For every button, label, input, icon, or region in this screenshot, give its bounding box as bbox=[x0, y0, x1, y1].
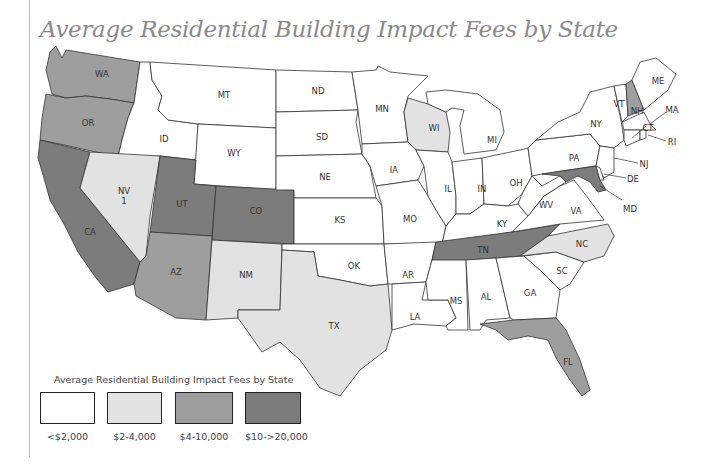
legend-item-2-4000: $2-4,000 bbox=[107, 392, 162, 442]
label-al: AL bbox=[481, 292, 492, 302]
label-ny: NY bbox=[590, 119, 602, 129]
label-vt: VT bbox=[613, 99, 625, 109]
label-il: IL bbox=[444, 184, 452, 194]
legend-item-10-20000: $10->20,000 bbox=[245, 392, 308, 442]
label-nv-sub: 1 bbox=[121, 196, 126, 206]
label-de: DE bbox=[627, 174, 639, 184]
label-mi: MI bbox=[487, 135, 497, 145]
label-az: AZ bbox=[170, 267, 182, 277]
label-nh: NH bbox=[631, 106, 644, 116]
label-sc: SC bbox=[556, 266, 567, 276]
label-ks: KS bbox=[335, 215, 346, 225]
label-tx: TX bbox=[327, 321, 339, 331]
legend-swatch bbox=[40, 392, 95, 424]
label-nd: ND bbox=[312, 86, 325, 96]
state-mt[interactable] bbox=[150, 62, 276, 128]
label-wv: WV bbox=[539, 200, 553, 210]
label-nv: NV bbox=[118, 186, 130, 196]
label-ct: CT bbox=[642, 123, 654, 133]
label-wa: WA bbox=[95, 69, 109, 79]
label-ga: GA bbox=[524, 288, 537, 298]
label-mn: MN bbox=[375, 104, 389, 114]
label-ma: MA bbox=[665, 105, 678, 115]
legend-swatch bbox=[107, 392, 162, 424]
legend-label: $2-4,000 bbox=[107, 431, 162, 442]
label-in: IN bbox=[478, 184, 487, 194]
label-ar: AR bbox=[402, 270, 414, 280]
label-ut: UT bbox=[176, 199, 188, 209]
label-or: OR bbox=[82, 118, 95, 128]
label-ky: KY bbox=[497, 219, 508, 229]
label-wy: WY bbox=[227, 148, 241, 158]
label-id: ID bbox=[159, 134, 169, 144]
label-sd: SD bbox=[316, 132, 328, 142]
legend-swatch bbox=[175, 392, 233, 424]
label-pa: PA bbox=[569, 153, 580, 163]
label-wi: WI bbox=[429, 123, 440, 133]
state-wa[interactable] bbox=[46, 46, 140, 103]
label-oh: OH bbox=[509, 178, 522, 188]
state-fl[interactable] bbox=[480, 318, 590, 396]
label-fl: FL bbox=[563, 357, 573, 367]
legend-label: $4-10,000 bbox=[175, 431, 233, 442]
label-la: LA bbox=[410, 312, 421, 322]
label-ok: OK bbox=[348, 261, 361, 271]
legend-label: <$2,000 bbox=[40, 431, 95, 442]
legend-title: Average Residential Building Impact Fees… bbox=[54, 374, 293, 385]
label-tn: TN bbox=[476, 245, 489, 255]
label-nc: NC bbox=[576, 239, 588, 249]
label-mt: MT bbox=[218, 90, 231, 100]
label-ia: IA bbox=[390, 165, 399, 175]
legend-item-under-2000: <$2,000 bbox=[40, 392, 95, 442]
legend-item-4-10000: $4-10,000 bbox=[175, 392, 233, 442]
legend-swatch bbox=[245, 392, 301, 424]
label-nm: NM bbox=[239, 270, 253, 280]
legend-label: $10->20,000 bbox=[245, 431, 308, 442]
label-ne: NE bbox=[319, 172, 331, 182]
label-nj: NJ bbox=[640, 159, 649, 169]
label-ca: CA bbox=[84, 227, 96, 237]
state-nm[interactable] bbox=[206, 240, 282, 320]
label-me: ME bbox=[652, 76, 665, 86]
label-co: CO bbox=[250, 206, 263, 216]
label-va: VA bbox=[570, 206, 581, 216]
label-md: MD bbox=[623, 204, 637, 214]
label-ms: MS bbox=[450, 296, 463, 306]
label-ri: RI bbox=[668, 137, 676, 147]
label-mo: MO bbox=[403, 214, 417, 224]
